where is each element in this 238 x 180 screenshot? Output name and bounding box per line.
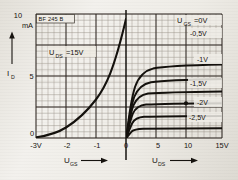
legend-label-ugs-head-sub: GS xyxy=(184,21,192,27)
y-axis-name: I xyxy=(7,69,9,78)
x-right-axis-arrow xyxy=(170,158,198,164)
uds-annotation-sub: DS xyxy=(56,53,64,59)
legend-label-ugs-2p5v: -2,5V xyxy=(189,114,206,121)
x-right-tick-15: 15V xyxy=(215,141,228,150)
y-axis-name-sub: D xyxy=(11,74,15,80)
chart-screenshot: BF 245 B 10 mA 5 0 I D -3V -2 -1 U GS 0 … xyxy=(0,0,238,180)
operating-point-marker xyxy=(184,101,188,105)
x-left-tick-minus3: -3V xyxy=(30,141,42,150)
x-left-tick-minus1: -1 xyxy=(94,141,101,150)
y-tick-0: 0 xyxy=(30,129,34,138)
jfet-characteristic-figure: BF 245 B 10 mA 5 0 I D -3V -2 -1 U GS 0 … xyxy=(0,0,238,180)
x-left-axis-arrow xyxy=(81,158,108,164)
x-right-axis-name-sub: DS xyxy=(158,161,166,167)
x-right-tick-10: 10 xyxy=(184,141,192,150)
x-right-tick-5: 5 xyxy=(156,141,160,150)
x-right-tick-0: 0 xyxy=(124,141,128,150)
y-tick-5: 5 xyxy=(29,72,33,81)
legend-label-ugs-1v: -1V xyxy=(197,56,208,63)
x-left-axis-name-sub: GS xyxy=(70,161,78,167)
uds-annotation-value: =15V xyxy=(66,48,84,57)
legend-label-ugs-0v: =0V xyxy=(194,16,207,25)
legend-label-ugs-head: U xyxy=(177,16,182,25)
legend-label-ugs-2v: -2V xyxy=(197,99,208,106)
y-unit-ma: mA xyxy=(22,21,33,30)
legend-label-ugs-1p5v: -1,5V xyxy=(190,80,207,87)
uds-annotation-name: U xyxy=(49,48,54,57)
part-number-label: BF 245 B xyxy=(39,16,64,22)
x-left-tick-minus2: -2 xyxy=(64,141,71,150)
y-axis-arrow xyxy=(9,32,15,65)
y-tick-10: 10 xyxy=(14,11,22,20)
legend-label-ugs-0p5v: -0,5V xyxy=(190,30,207,37)
